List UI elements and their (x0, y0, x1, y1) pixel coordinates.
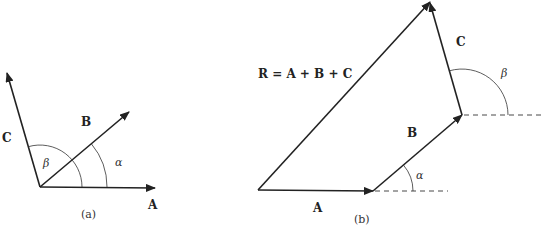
alpha-arc (92, 144, 108, 187)
vector-b-label: B (81, 115, 91, 129)
figure-b-caption: (b) (354, 213, 370, 226)
vector-a-label: A (147, 198, 158, 212)
vector-c-label: C (456, 35, 466, 49)
beta-label: β (500, 67, 507, 80)
beta-label: β (42, 157, 49, 170)
vector-c-label: C (2, 131, 12, 145)
resultant-r-arrow (258, 2, 430, 190)
vector-a-arrow (258, 190, 373, 191)
alpha-label: α (115, 156, 123, 169)
alpha-arc (403, 165, 413, 191)
alpha-label: α (416, 169, 424, 182)
vector-a-arrow (40, 187, 155, 188)
vector-c-arrow (7, 73, 40, 187)
figure-a-caption: (a) (81, 208, 96, 221)
vector-b-label: B (407, 126, 417, 140)
figure-a: A B C α β (a) (2, 73, 158, 221)
resultant-equation: R = A + B + C (258, 67, 352, 81)
vector-a-label: A (312, 201, 323, 215)
vector-c-arrow (430, 3, 462, 115)
vector-addition-diagram: A B C α β (a) R = A + B + C A B C α β (b… (0, 0, 541, 233)
figure-b: R = A + B + C A B C α β (b) (258, 2, 541, 226)
beta-arc (449, 69, 508, 115)
beta-arc (28, 145, 82, 187)
